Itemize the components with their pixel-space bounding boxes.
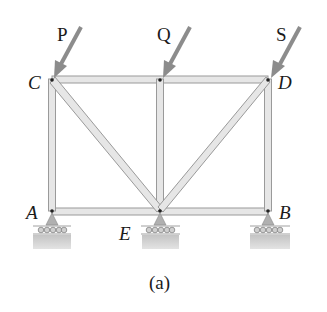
- load-label-S: S: [276, 24, 287, 45]
- support-E: [141, 213, 180, 249]
- node-label-C: C: [28, 72, 41, 93]
- member-CA: [49, 79, 56, 211]
- node-label-A: A: [24, 202, 38, 223]
- pin-C: [50, 78, 54, 82]
- support-A: [33, 213, 71, 249]
- truss-members: [49, 76, 272, 215]
- node-label-D: D: [277, 72, 292, 93]
- member-CE: [50, 77, 162, 212]
- pin-B: [266, 209, 270, 213]
- pin-M: [158, 78, 162, 82]
- member-DB: [265, 79, 272, 211]
- member-DE: [158, 77, 270, 212]
- load-label-Q: Q: [157, 24, 171, 45]
- node-label-E: E: [118, 223, 131, 244]
- pin-A: [50, 209, 54, 213]
- load-label-P: P: [57, 24, 68, 45]
- pin-E: [158, 209, 162, 213]
- load-arrows: [54, 27, 300, 78]
- node-label-B: B: [279, 202, 291, 223]
- truss-diagram: P Q S C D A E B (a): [0, 0, 327, 312]
- figure-caption: (a): [149, 272, 170, 294]
- pin-D: [266, 78, 270, 82]
- member-ME: [157, 79, 164, 211]
